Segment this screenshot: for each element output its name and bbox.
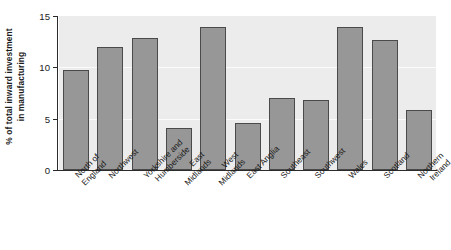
plot-area <box>59 16 436 170</box>
y-tick-mark <box>53 67 57 68</box>
bar <box>63 70 89 170</box>
bar <box>372 40 398 170</box>
y-tick-label: 0 <box>45 165 50 176</box>
bar <box>97 47 123 170</box>
x-axis-category-labels: North of EnglandNorthwestYorkshire and H… <box>59 172 451 250</box>
y-axis-tick-labels: 051015 <box>28 0 50 180</box>
bar-chart: % of total inward investment in manufact… <box>0 0 451 250</box>
y-tick-label: 10 <box>39 62 50 73</box>
y-tick-mark <box>53 119 57 120</box>
bar <box>200 27 226 170</box>
y-tick-mark <box>53 16 57 17</box>
y-tick-label: 5 <box>45 113 50 124</box>
y-tick-label: 15 <box>39 11 50 22</box>
y-axis-title-line-2: in manufacturing <box>15 28 27 144</box>
y-axis-title-line-1: % of total inward investment <box>4 28 16 144</box>
y-axis-title: % of total inward investment in manufact… <box>0 0 30 172</box>
y-tick-mark <box>53 170 57 171</box>
bars-group <box>59 16 436 170</box>
